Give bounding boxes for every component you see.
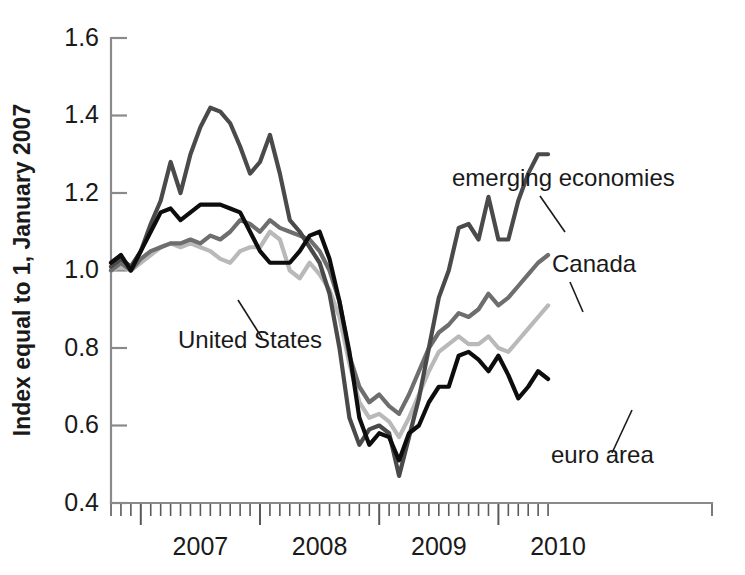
y-tick-label: 0.4: [64, 488, 99, 516]
series-line-canada: [111, 220, 548, 414]
y-tick-label: 0.6: [64, 410, 99, 438]
y-axis-title-group: Index equal to 1, January 2007: [9, 104, 35, 436]
y-tick-label: 0.8: [64, 333, 99, 361]
x-tick-label: 2010: [530, 532, 586, 560]
x-tick-label: 2008: [292, 532, 348, 560]
y-tick-label: 1.4: [64, 100, 99, 128]
annotation-leader-emerging-economies: [540, 196, 565, 232]
y-tick-label: 1.0: [64, 255, 99, 283]
y-tick-label: 1.2: [64, 178, 99, 206]
series-line-emerging-economies: [111, 108, 548, 476]
chart-figure: Index equal to 1, January 2007 0.40.60.8…: [0, 0, 745, 575]
series-label-euro-area: euro area: [551, 441, 654, 468]
x-tick-label: 2009: [411, 532, 467, 560]
series-label-emerging-economies: emerging economies: [452, 164, 675, 191]
y-tick-label: 1.6: [64, 23, 99, 51]
x-tick-group: [111, 503, 712, 525]
y-tick-label-group: 0.40.60.81.01.21.41.6: [64, 23, 99, 516]
line-chart: Index equal to 1, January 2007 0.40.60.8…: [0, 0, 745, 575]
series-label-united-states: United States: [178, 326, 322, 353]
series-label-canada: Canada: [552, 250, 637, 277]
annotation-leader-canada: [570, 282, 583, 312]
x-tick-label-group: 2007200820092010: [173, 532, 586, 560]
series-group: [111, 108, 548, 476]
annotation-group: emerging economiesCanadaUnited Stateseur…: [178, 164, 675, 468]
x-tick-label: 2007: [173, 532, 229, 560]
y-axis-title: Index equal to 1, January 2007: [9, 104, 35, 436]
